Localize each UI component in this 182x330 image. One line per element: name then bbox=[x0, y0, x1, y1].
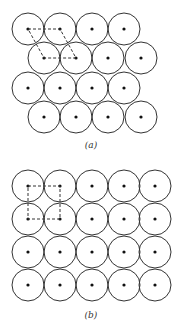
sphere-center-dot bbox=[90, 217, 93, 220]
sphere-center-dot bbox=[26, 250, 29, 253]
panel-a-hexagonal-packing bbox=[12, 13, 157, 133]
sphere-center-dot bbox=[122, 27, 125, 30]
sphere-center-dot bbox=[122, 217, 125, 220]
sphere-center-dot bbox=[122, 283, 125, 286]
sphere-center-dot bbox=[90, 283, 93, 286]
sphere-center-dot bbox=[122, 184, 125, 187]
panel-a-caption: (a) bbox=[0, 140, 182, 150]
sphere-center-dot bbox=[153, 184, 156, 187]
sphere-center-dot bbox=[122, 250, 125, 253]
sphere-center-dot bbox=[106, 115, 109, 118]
sphere-center-dot bbox=[90, 86, 93, 89]
packing-diagram bbox=[0, 0, 182, 330]
sphere-center-dot bbox=[90, 184, 93, 187]
sphere-center-dot bbox=[58, 86, 61, 89]
sphere-center-dot bbox=[58, 250, 61, 253]
sphere-center-dot bbox=[42, 115, 45, 118]
sphere-center-dot bbox=[26, 283, 29, 286]
sphere-center-dot bbox=[139, 56, 142, 59]
sphere-center-dot bbox=[26, 86, 29, 89]
sphere-center-dot bbox=[74, 115, 77, 118]
sphere-center-dot bbox=[122, 86, 125, 89]
panel-b-square-packing bbox=[12, 170, 171, 301]
sphere-center-dot bbox=[90, 27, 93, 30]
sphere-center-dot bbox=[106, 56, 109, 59]
panel-b-caption: (b) bbox=[0, 310, 182, 320]
sphere-center-dot bbox=[153, 217, 156, 220]
sphere-center-dot bbox=[139, 115, 142, 118]
sphere-center-dot bbox=[153, 283, 156, 286]
sphere-center-dot bbox=[90, 250, 93, 253]
unit-cell-outline bbox=[28, 186, 60, 219]
sphere-center-dot bbox=[153, 250, 156, 253]
sphere-center-dot bbox=[58, 283, 61, 286]
